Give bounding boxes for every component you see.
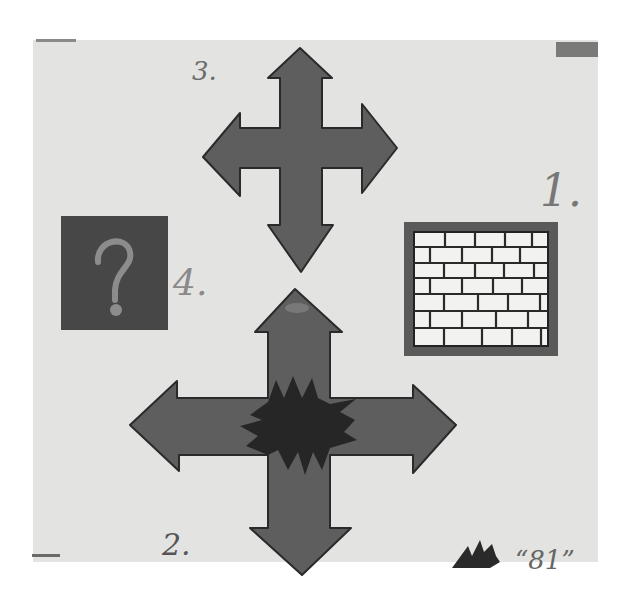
- label-item-4: 4.: [173, 262, 207, 303]
- label-item-3: 3.: [192, 56, 217, 86]
- label-item-1: 1.: [540, 165, 582, 216]
- signature-text: “81”: [515, 545, 575, 575]
- four-way-arrow-icon: [203, 48, 397, 272]
- label-item-2: 2.: [162, 527, 191, 562]
- question-box-icon: [61, 216, 168, 330]
- signature-scribble: [452, 540, 500, 568]
- painting: [0, 0, 630, 603]
- brick-wall-icon: [404, 222, 558, 356]
